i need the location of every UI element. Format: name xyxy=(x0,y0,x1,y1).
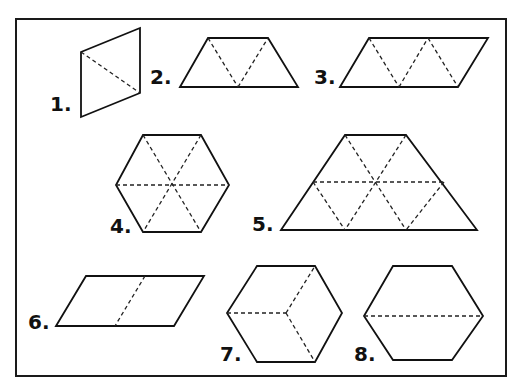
figure-4-label: 4. xyxy=(110,214,132,238)
figure-2-label: 2. xyxy=(150,65,172,89)
figure-8-label: 8. xyxy=(354,342,376,366)
figure-6-label: 6. xyxy=(28,310,50,334)
figure-1-label: 1. xyxy=(50,92,72,116)
figure-7-label: 7. xyxy=(220,342,242,366)
diagram-canvas: 1.2.3.4.5.6.7.8. xyxy=(0,0,517,385)
figure-3-label: 3. xyxy=(314,65,336,89)
figure-5-label: 5. xyxy=(252,212,274,236)
